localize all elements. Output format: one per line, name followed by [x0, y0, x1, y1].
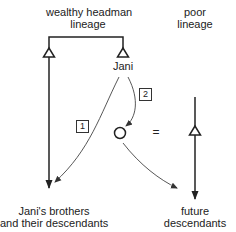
- future-descendants-label: future descendants: [163, 205, 227, 229]
- male-icon-jani: [118, 48, 129, 57]
- step-1-badge: 1: [76, 120, 89, 133]
- female-icon-wife: [115, 128, 126, 139]
- male-icon-brother: [44, 48, 55, 57]
- male-icon-poor-lineage: [190, 126, 201, 135]
- step-2-badge: 2: [139, 88, 152, 101]
- jani-label: Jani: [108, 60, 138, 72]
- arrow-wife-to-future: [123, 143, 177, 188]
- poor-lineage-label: poor lineage: [175, 6, 215, 30]
- sibling-bar: [49, 37, 123, 48]
- arrow-2-to-wife: [126, 77, 135, 126]
- kinship-diagram: wealthy headman lineage poor lineage Jan…: [0, 0, 236, 232]
- diagram-graphics: [0, 0, 236, 232]
- wealthy-lineage-label: wealthy headman lineage: [46, 6, 130, 30]
- brothers-label: Jani's brothers and their descendants: [0, 205, 108, 229]
- marriage-equals: =: [150, 126, 162, 138]
